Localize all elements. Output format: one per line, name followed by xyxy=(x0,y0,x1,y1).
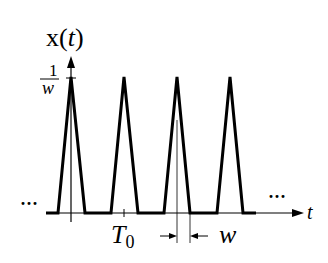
width-arrow-left-icon xyxy=(190,233,198,239)
time-axis-arrow-icon xyxy=(292,209,304,217)
y-axis-label: x(t) xyxy=(46,23,84,52)
width-label: w xyxy=(219,220,237,249)
right-ellipsis: ··· xyxy=(268,187,286,207)
amplitude-axis-arrow-icon xyxy=(67,56,75,68)
width-arrow-right-icon xyxy=(169,233,177,239)
left-ellipsis: ··· xyxy=(20,194,38,214)
x-axis-label: t xyxy=(307,201,313,223)
pulse-train-diagram: x(t) 1 w ··· ··· t T0 w xyxy=(0,0,328,263)
period-label: T0 xyxy=(111,220,134,252)
peak-label-denominator: w xyxy=(42,78,54,98)
pulse-train-waveform xyxy=(46,77,256,213)
